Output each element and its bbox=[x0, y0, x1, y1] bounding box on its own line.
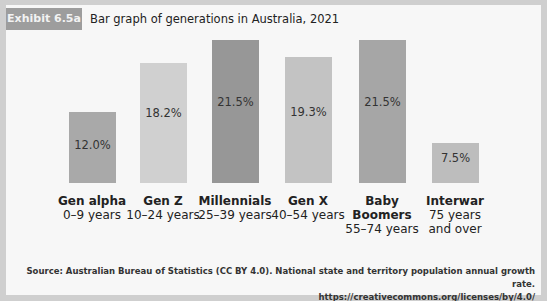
category-label-gen-alpha: Gen alpha 0–9 years bbox=[52, 194, 132, 222]
chart-title: Bar graph of generations in Australia, 2… bbox=[90, 8, 339, 30]
category-age-range: 75 years bbox=[415, 208, 495, 222]
bar-gen-x: 19.3% bbox=[285, 57, 332, 183]
category-label-baby-boomers: Baby Boomers 55–74 years bbox=[342, 194, 422, 236]
exhibit-badge: Exhibit 6.5a bbox=[6, 8, 82, 30]
category-age-range: 25–39 years bbox=[195, 208, 275, 222]
bar-interwar: 7.5% bbox=[432, 143, 479, 183]
bar-value-label: 21.5% bbox=[359, 95, 406, 109]
bar-value-label: 12.0% bbox=[69, 138, 116, 152]
category-name: Millennials bbox=[195, 194, 275, 208]
category-age-range-line2: and over bbox=[415, 222, 495, 236]
category-label-gen-x: Gen X 40–54 years bbox=[268, 194, 348, 222]
category-name-line2: Boomers bbox=[342, 208, 422, 222]
chart-panel: Exhibit 6.5a Bar graph of generations in… bbox=[6, 5, 541, 295]
bar-value-label: 18.2% bbox=[140, 106, 187, 120]
bar-value-label: 7.5% bbox=[432, 151, 479, 165]
source-note: Source: Australian Bureau of Statistics … bbox=[6, 265, 535, 301]
category-name: Baby bbox=[342, 194, 422, 208]
category-age-range: 10–24 years bbox=[123, 208, 203, 222]
category-label-interwar: Interwar 75 years and over bbox=[415, 194, 495, 236]
category-name: Interwar bbox=[415, 194, 495, 208]
source-text: Source: Australian Bureau of Statistics … bbox=[6, 265, 535, 291]
category-name: Gen alpha bbox=[52, 194, 132, 208]
category-name: Gen X bbox=[268, 194, 348, 208]
bar-baby-boomers: 21.5% bbox=[359, 40, 406, 183]
bar-gen-z: 18.2% bbox=[140, 63, 187, 183]
bar-millennials: 21.5% bbox=[212, 40, 259, 183]
category-label-gen-z: Gen Z 10–24 years bbox=[123, 194, 203, 222]
category-label-millennials: Millennials 25–39 years bbox=[195, 194, 275, 222]
category-name: Gen Z bbox=[123, 194, 203, 208]
bar-gen-alpha: 12.0% bbox=[69, 112, 116, 183]
bar-value-label: 19.3% bbox=[285, 105, 332, 119]
category-age-range: 40–54 years bbox=[268, 208, 348, 222]
license-link[interactable]: https://creativecommons.org/licenses/by/… bbox=[6, 291, 535, 301]
category-age-range: 0–9 years bbox=[52, 208, 132, 222]
category-age-range: 55–74 years bbox=[342, 222, 422, 236]
bar-value-label: 21.5% bbox=[212, 95, 259, 109]
